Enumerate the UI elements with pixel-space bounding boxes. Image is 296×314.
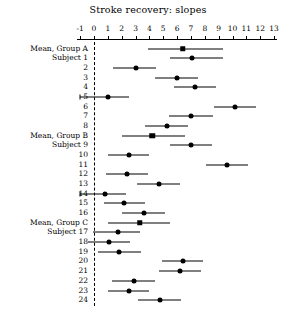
- subject-estimate-marker: [177, 269, 182, 274]
- subject-estimate-marker: [165, 123, 170, 128]
- x-axis-tick: [163, 36, 164, 39]
- row-label: Mean, Group A: [30, 45, 88, 53]
- x-axis-tick: [205, 36, 206, 39]
- row-label: Subject 9: [52, 141, 88, 149]
- row-label: 22: [78, 277, 88, 285]
- group-mean-marker: [149, 133, 155, 139]
- group-mean-marker: [180, 46, 186, 52]
- row-label: Subject 17: [47, 228, 88, 236]
- row-label: 7: [83, 112, 88, 120]
- x-axis-tick-label: 2: [119, 25, 124, 33]
- x-axis-tick-label: 0: [92, 25, 97, 33]
- x-axis-tick-label: 4: [147, 25, 152, 33]
- row-label: 23: [78, 287, 88, 295]
- subject-estimate-marker: [133, 65, 138, 70]
- row-label: 10: [78, 151, 88, 159]
- subject-estimate-marker: [158, 298, 163, 303]
- row-label: 12: [78, 170, 88, 178]
- subject-estimate-marker: [141, 211, 146, 216]
- subject-estimate-marker: [193, 85, 198, 90]
- subject-estimate-marker: [107, 240, 112, 245]
- subject-estimate-marker: [115, 230, 120, 235]
- group-mean-marker: [137, 220, 143, 226]
- subject-estimate-marker: [116, 249, 121, 254]
- row-label: 2: [83, 64, 88, 72]
- x-axis-tick: [177, 36, 178, 39]
- x-axis-line: [77, 39, 277, 40]
- x-axis-tick-label: 7: [189, 25, 194, 33]
- chart-title: Stroke recovery: slopes: [0, 4, 296, 15]
- row-label: 3: [83, 74, 88, 82]
- subject-estimate-marker: [190, 56, 195, 61]
- subject-estimate-marker: [188, 143, 193, 148]
- x-axis-tick: [274, 36, 275, 39]
- x-axis-tick-label: 3: [133, 25, 138, 33]
- row-label: 18: [78, 238, 88, 246]
- row-label: 8: [83, 122, 88, 130]
- x-axis-tick-label: 6: [175, 25, 180, 33]
- x-axis-tick-label: 8: [202, 25, 207, 33]
- row-label: Mean, Group B: [30, 132, 88, 140]
- subject-estimate-marker: [105, 94, 110, 99]
- x-axis-tick-label: 1: [105, 25, 110, 33]
- x-axis-tick: [94, 36, 95, 39]
- subject-estimate-marker: [122, 201, 127, 206]
- x-axis-tick-label: 13: [269, 25, 279, 33]
- x-axis-tick-label: 11: [242, 25, 252, 33]
- row-label: 6: [83, 103, 88, 111]
- subject-estimate-marker: [126, 288, 131, 293]
- row-label: 4: [83, 83, 88, 91]
- row-label: 20: [78, 257, 88, 265]
- row-label: 16: [78, 209, 88, 217]
- row-label: Mean, Group C: [30, 219, 88, 227]
- subject-estimate-marker: [132, 278, 137, 283]
- x-axis-tick: [191, 36, 192, 39]
- row-label: 21: [78, 267, 88, 275]
- x-axis-tick-label: 10: [228, 25, 238, 33]
- x-axis-tick-label: -1: [76, 25, 83, 33]
- confidence-interval-line: [170, 58, 223, 59]
- subject-estimate-marker: [157, 182, 162, 187]
- x-axis-tick-label: 5: [161, 25, 166, 33]
- x-axis-tick: [80, 36, 81, 39]
- interval-end-cap: [80, 191, 81, 196]
- x-axis-tick: [136, 36, 137, 39]
- subject-estimate-marker: [103, 191, 108, 196]
- x-axis-tick: [246, 36, 247, 39]
- interval-end-cap: [80, 94, 81, 99]
- subject-estimate-marker: [126, 152, 131, 157]
- x-axis-tick: [122, 36, 123, 39]
- row-label: 24: [78, 296, 88, 304]
- x-axis-tick: [108, 36, 109, 39]
- row-label: 15: [78, 199, 88, 207]
- row-label: 13: [78, 180, 88, 188]
- subject-estimate-marker: [224, 162, 229, 167]
- x-axis-tick-label: 9: [216, 25, 221, 33]
- x-axis-tick: [219, 36, 220, 39]
- x-axis-tick: [149, 36, 150, 39]
- x-axis-tick: [260, 36, 261, 39]
- x-axis-tick: [233, 36, 234, 39]
- forest-plot: Stroke recovery: slopes -101234567891011…: [0, 0, 296, 314]
- row-label: 11: [78, 161, 88, 169]
- subject-estimate-marker: [233, 104, 238, 109]
- subject-estimate-marker: [175, 75, 180, 80]
- row-label: 19: [78, 248, 88, 256]
- subject-estimate-marker: [125, 172, 130, 177]
- confidence-interval-line: [148, 48, 223, 49]
- subject-estimate-marker: [188, 114, 193, 119]
- row-label: Subject 1: [52, 54, 88, 62]
- zero-reference-line: [94, 42, 95, 307]
- x-axis-tick-label: 12: [255, 25, 265, 33]
- subject-estimate-marker: [180, 259, 185, 264]
